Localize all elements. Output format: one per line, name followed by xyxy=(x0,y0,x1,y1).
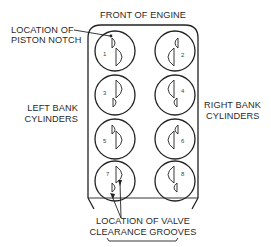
valve-grooves-label-line1: LOCATION OF VALVE xyxy=(96,216,190,226)
piston-notch-label-line2: PISTON NOTCH xyxy=(11,35,81,45)
left-bank-label-line1: LEFT BANK xyxy=(27,103,79,113)
cylinder-2-number: 2 xyxy=(181,52,185,58)
cylinder-6: 6 xyxy=(155,119,195,159)
cylinder-4: 4 xyxy=(155,75,195,115)
engine-cylinder-diagram: FRONT OF ENGINE LOCATION OF PISTON NOTCH… xyxy=(0,0,271,247)
left-bank-label-line2: CYLINDERS xyxy=(25,114,79,124)
right-bank-label-line1: RIGHT BANK xyxy=(204,100,262,110)
piston-notch-marker xyxy=(110,35,113,38)
cylinder-4-number: 4 xyxy=(181,88,185,94)
cylinder-5-number: 5 xyxy=(103,138,107,144)
cylinder-5: 5 xyxy=(95,119,135,159)
cylinder-3: 3 xyxy=(95,75,135,115)
front-of-engine-label: FRONT OF ENGINE xyxy=(100,10,186,20)
cylinder-1: 1 xyxy=(95,31,135,71)
cylinder-1-number: 1 xyxy=(103,51,107,57)
cylinder-6-number: 6 xyxy=(181,138,185,144)
cylinder-7-number: 7 xyxy=(106,171,110,177)
right-bank-label-line2: CYLINDERS xyxy=(206,111,260,121)
piston-notch-label-line1: LOCATION OF xyxy=(11,25,74,35)
cylinder-8: 8 xyxy=(155,161,195,201)
cylinder-8-number: 8 xyxy=(181,171,185,177)
cylinder-3-number: 3 xyxy=(103,90,107,96)
valve-grooves-bracket xyxy=(107,238,178,241)
cylinder-7: 7 xyxy=(95,161,135,201)
cylinder-2: 2 xyxy=(155,31,195,71)
valve-grooves-label-line2: CLEARANCE GROOVES xyxy=(90,227,197,237)
